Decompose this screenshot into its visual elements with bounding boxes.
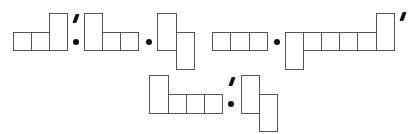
cell (321, 32, 340, 51)
cell (303, 32, 322, 51)
cell (204, 94, 223, 114)
cell (186, 94, 205, 114)
dot-operator (146, 39, 152, 45)
prime-mark (399, 12, 406, 21)
cell (212, 32, 231, 51)
cell (230, 32, 250, 51)
cell (285, 32, 304, 70)
cell (49, 13, 68, 51)
dot-operator (73, 39, 79, 45)
cell (376, 13, 395, 51)
cell (149, 75, 169, 114)
cell (13, 32, 32, 51)
cell (249, 32, 268, 51)
dot-operator (274, 39, 280, 45)
prime-mark (228, 77, 235, 86)
cell (157, 13, 177, 51)
tableau-diagram (0, 0, 414, 134)
cell (357, 32, 377, 51)
cell (168, 94, 187, 114)
cell (84, 13, 103, 51)
cell (176, 32, 195, 70)
dot-operator (228, 101, 234, 107)
cell (31, 32, 50, 51)
cell (120, 32, 139, 51)
cell (102, 32, 121, 51)
prime-mark (72, 14, 79, 23)
cell (259, 94, 278, 132)
cell (339, 32, 358, 51)
cell (241, 75, 260, 114)
